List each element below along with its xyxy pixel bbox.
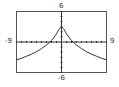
chart-plot bbox=[0, 0, 119, 87]
